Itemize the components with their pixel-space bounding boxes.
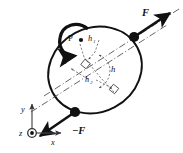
- label-torque: T: [62, 56, 69, 66]
- force-point-upper: [129, 32, 139, 42]
- force-arrows: [40, 13, 170, 136]
- label-h1: h: [88, 34, 92, 43]
- p-to-foot-line: [80, 44, 88, 62]
- right-angle-marker-2: [109, 84, 119, 94]
- label-force-negative: −F: [72, 125, 85, 136]
- force-couple-figure: F −F T P h 1 h 2 h y x z: [0, 0, 183, 153]
- label-h: h: [111, 64, 115, 74]
- figure-labels: F −F T P h 1 h 2 h y x z: [18, 7, 149, 147]
- label-h2-subscript: 2: [90, 80, 93, 85]
- label-force-positive: F: [141, 7, 149, 18]
- label-axis-z: z: [18, 129, 23, 138]
- label-h1-group: h 1: [88, 34, 95, 44]
- label-axis-x: x: [50, 138, 55, 147]
- rigid-body-outline: [33, 10, 157, 129]
- force-point-lower: [70, 107, 80, 117]
- couple-axis-line-lower: [31, 25, 167, 112]
- label-h2-group: h 2: [85, 75, 93, 85]
- axis-z-dot-icon: [30, 131, 34, 135]
- label-axis-y: y: [20, 105, 25, 114]
- dimension-leaders: [71, 40, 114, 92]
- diagram-canvas: F −F T P h 1 h 2 h y x z: [0, 0, 183, 153]
- force-arrow-lower: [40, 112, 75, 136]
- h-arc-lower: [99, 70, 110, 88]
- force-arrow-upper: [134, 13, 170, 37]
- label-h1-subscript: 1: [93, 39, 95, 44]
- label-point-p: P: [68, 33, 73, 43]
- label-h2: h: [85, 75, 89, 84]
- point-p-dot: [79, 38, 83, 42]
- couple-axis-lines: [31, 9, 179, 112]
